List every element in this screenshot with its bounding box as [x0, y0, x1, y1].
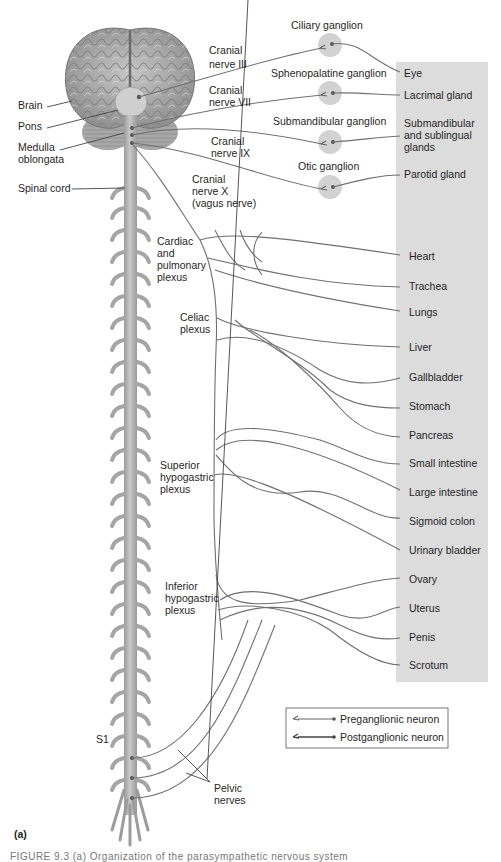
- organ-small-intestine: Small intestine: [409, 457, 477, 469]
- label-brain: Brain: [18, 99, 43, 111]
- organ-stomach: Stomach: [409, 400, 451, 412]
- label-pelvic-2: nerves: [214, 794, 246, 806]
- label-pelvic-1: Pelvic: [214, 782, 242, 794]
- label-sphenopalatine-ganglion: Sphenopalatine ganglion: [271, 67, 387, 79]
- organ-ovary: Ovary: [409, 573, 438, 585]
- label-otic-ganglion: Otic ganglion: [298, 160, 359, 172]
- label-medulla-1: Medulla: [18, 141, 55, 153]
- label-cardiac-3: pulmonary: [157, 259, 207, 271]
- otic-ganglion: [318, 175, 342, 199]
- ciliary-ganglion: [318, 33, 342, 57]
- label-cn10-2: nerve X: [192, 185, 228, 197]
- organ-gallbladder: Gallbladder: [409, 371, 463, 383]
- label-spinal-cord: Spinal cord: [18, 182, 71, 194]
- label-inferior-hypogastric-3: plexus: [165, 604, 195, 616]
- label-superior-hypogastric-3: plexus: [160, 483, 190, 495]
- label-superior-hypogastric-1: Superior: [160, 459, 200, 471]
- svg-text:Postganglionic neuron: Postganglionic neuron: [340, 731, 444, 743]
- label-celiac-1: Celiac: [180, 311, 209, 323]
- label-celiac-2: plexus: [180, 323, 210, 335]
- target-submandibular-1: Submandibular: [404, 117, 475, 129]
- organ-sigmoid-colon: Sigmoid colon: [409, 515, 475, 527]
- organ-scrotum: Scrotum: [409, 659, 448, 671]
- organ-uterus: Uterus: [409, 602, 440, 614]
- label-cardiac-4: plexus: [157, 271, 187, 283]
- label-cardiac-1: Cardiac: [157, 235, 193, 247]
- legend: Preganglionic neuron Postganglionic neur…: [286, 708, 448, 748]
- organ-large-intestine: Large intestine: [409, 486, 478, 498]
- label-medulla-2: oblongata: [18, 153, 64, 165]
- figure-caption: FIGURE 9.3 (a) Organization of the paras…: [10, 851, 348, 862]
- target-submandibular-3: glands: [404, 141, 435, 153]
- label-cn9-1: Cranial: [211, 135, 244, 147]
- label-cn9-2: nerve IX: [211, 147, 250, 159]
- label-cn7-1: Cranial: [209, 84, 242, 96]
- target-lacrimal: Lacrimal gland: [404, 89, 472, 101]
- target-submandibular-2: and sublingual: [404, 129, 472, 141]
- label-cn3-2: nerve III: [209, 58, 247, 70]
- label-inferior-hypogastric-1: Inferior: [165, 580, 198, 592]
- label-cn10-1: Cranial: [192, 173, 225, 185]
- pons: [115, 87, 147, 117]
- label-superior-hypogastric-2: hypogastric: [160, 471, 214, 483]
- organ-urinary-bladder: Urinary bladder: [409, 544, 481, 556]
- organ-pancreas: Pancreas: [409, 429, 453, 441]
- svg-text:Preganglionic neuron: Preganglionic neuron: [340, 713, 439, 725]
- label-pons: Pons: [18, 120, 42, 132]
- label-inferior-hypogastric-2: hypogastric: [165, 592, 219, 604]
- target-eye: Eye: [404, 67, 422, 79]
- brain-illustration: [65, 28, 194, 128]
- label-cn3-1: Cranial: [209, 44, 242, 56]
- label-ciliary-ganglion: Ciliary ganglion: [291, 19, 363, 31]
- organ-liver: Liver: [409, 341, 432, 353]
- label-s1: S1: [96, 733, 109, 745]
- organ-penis: Penis: [409, 631, 435, 643]
- spinal-cord: [112, 115, 149, 845]
- target-parotid: Parotid gland: [404, 168, 466, 180]
- organ-lungs: Lungs: [409, 306, 438, 318]
- panel-label: (a): [14, 828, 27, 840]
- label-cardiac-2: and: [157, 247, 175, 259]
- organ-heart: Heart: [409, 250, 435, 262]
- label-cn7-2: nerve VII: [209, 96, 251, 108]
- organ-trachea: Trachea: [409, 280, 447, 292]
- label-cn10-3: (vagus nerve): [192, 197, 256, 209]
- label-submandibular-ganglion: Submandibular ganglion: [273, 115, 386, 127]
